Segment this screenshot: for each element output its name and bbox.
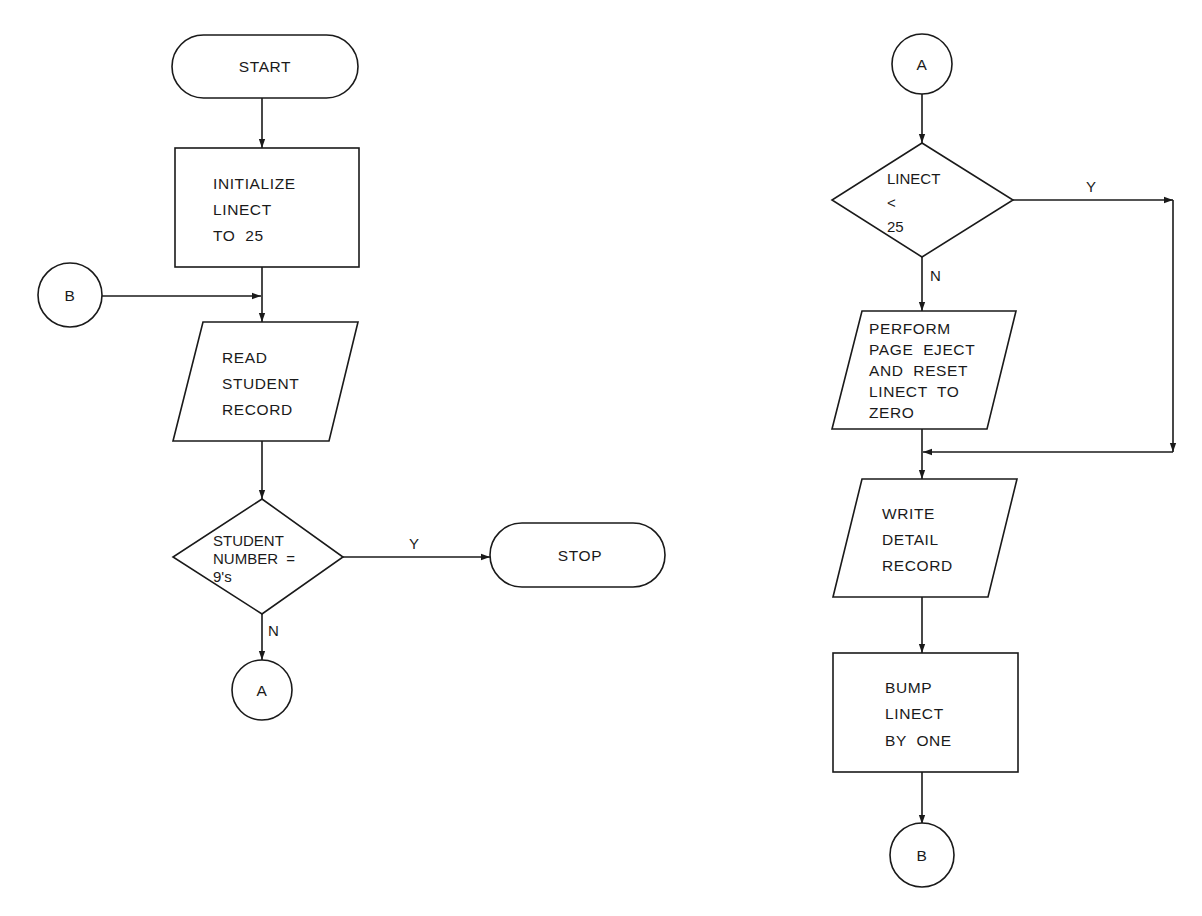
- read-line-2: STUDENT: [222, 375, 299, 392]
- write-line-1: WRITE: [882, 505, 935, 522]
- decision2-line-2: <: [887, 194, 896, 211]
- bump-line-2: LINECT: [885, 705, 944, 722]
- init-line-3: TO 25: [213, 227, 264, 244]
- page-eject-io: PERFORM PAGE EJECT AND RESET LINECT TO Z…: [832, 311, 1016, 429]
- init-line-2: LINECT: [213, 201, 272, 218]
- decision2-line-1: LINECT: [887, 170, 940, 187]
- bump-line-1: BUMP: [885, 679, 932, 696]
- page-eject-line-2: PAGE EJECT: [869, 341, 975, 358]
- decision2-yes-label: Y: [1086, 178, 1096, 195]
- decision1-line-3: 9's: [213, 568, 232, 585]
- connector-b-exit-label: B: [917, 847, 928, 864]
- decision1-line-1: STUDENT: [213, 532, 284, 549]
- decision2-no-label: N: [930, 267, 941, 284]
- connector-b-entry: B: [38, 263, 102, 327]
- stop-terminal: STOP: [490, 523, 665, 587]
- connector-b-exit: B: [890, 823, 954, 887]
- connector-b-entry-label: B: [65, 287, 76, 304]
- write-line-3: RECORD: [882, 557, 953, 574]
- decision1-yes-label: Y: [409, 535, 419, 552]
- connector-a-exit: A: [232, 660, 292, 720]
- start-label: START: [239, 58, 291, 75]
- flowchart-canvas: START INITIALIZE LINECT TO 25 B READ STU…: [0, 0, 1202, 916]
- read-student-record-io: READ STUDENT RECORD: [173, 322, 358, 441]
- right-flowchart: A LINECT < 25 Y N PERFORM PAGE EJECT AND…: [832, 34, 1173, 887]
- page-eject-line-1: PERFORM: [869, 320, 951, 337]
- page-eject-line-5: ZERO: [869, 404, 914, 421]
- decision2-line-3: 25: [887, 218, 904, 235]
- start-terminal: START: [172, 35, 358, 98]
- connector-a-exit-label: A: [257, 682, 268, 699]
- left-flowchart: START INITIALIZE LINECT TO 25 B READ STU…: [38, 35, 665, 720]
- connector-a-entry: A: [892, 34, 952, 94]
- page-eject-line-3: AND RESET: [869, 362, 968, 379]
- decision-linect-less-25: LINECT < 25: [832, 143, 1013, 257]
- initialize-process-box: INITIALIZE LINECT TO 25: [175, 148, 359, 267]
- bump-line-3: BY ONE: [885, 732, 952, 749]
- decision-student-number-9s: STUDENT NUMBER = 9's: [173, 499, 343, 614]
- connector-a-entry-label: A: [917, 56, 928, 73]
- page-eject-line-4: LINECT TO: [869, 383, 959, 400]
- write-detail-record-io: WRITE DETAIL RECORD: [833, 479, 1017, 597]
- write-line-2: DETAIL: [882, 531, 939, 548]
- read-line-1: READ: [222, 349, 267, 366]
- init-line-1: INITIALIZE: [213, 175, 296, 192]
- stop-label: STOP: [558, 547, 602, 564]
- read-line-3: RECORD: [222, 401, 293, 418]
- bump-linect-process-box: BUMP LINECT BY ONE: [833, 653, 1018, 772]
- decision1-no-label: N: [268, 622, 279, 639]
- decision1-line-2: NUMBER =: [213, 550, 295, 567]
